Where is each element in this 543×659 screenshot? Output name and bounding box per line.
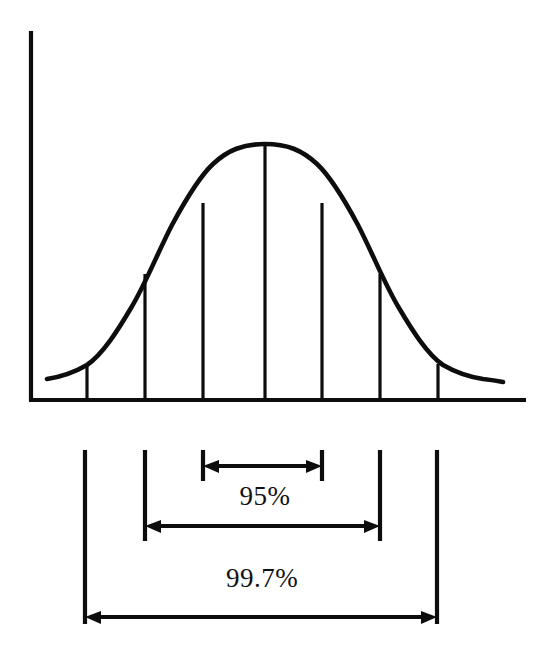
dimension-arrow-middle bbox=[145, 520, 380, 533]
figure-canvas: 95% 99.7% bbox=[0, 0, 543, 659]
arrow-head-right-middle bbox=[364, 520, 380, 533]
bell-curve bbox=[47, 144, 503, 382]
arrow-head-left-middle bbox=[145, 520, 161, 533]
dimension-arrow-997 bbox=[85, 611, 437, 624]
label-99-7-percent: 99.7% bbox=[226, 563, 298, 593]
normal-distribution-figure: 95% 99.7% bbox=[0, 0, 543, 659]
interval-bracket-panel: 95% 99.7% bbox=[85, 450, 437, 624]
arrow-head-right-95 bbox=[306, 460, 322, 473]
label-95-percent: 95% bbox=[240, 481, 291, 511]
dimension-arrow-95 bbox=[203, 460, 322, 473]
curve-panel bbox=[29, 31, 526, 401]
arrow-head-right-997 bbox=[421, 611, 437, 624]
arrow-head-left-95 bbox=[203, 460, 219, 473]
arrow-head-left-997 bbox=[85, 611, 101, 624]
